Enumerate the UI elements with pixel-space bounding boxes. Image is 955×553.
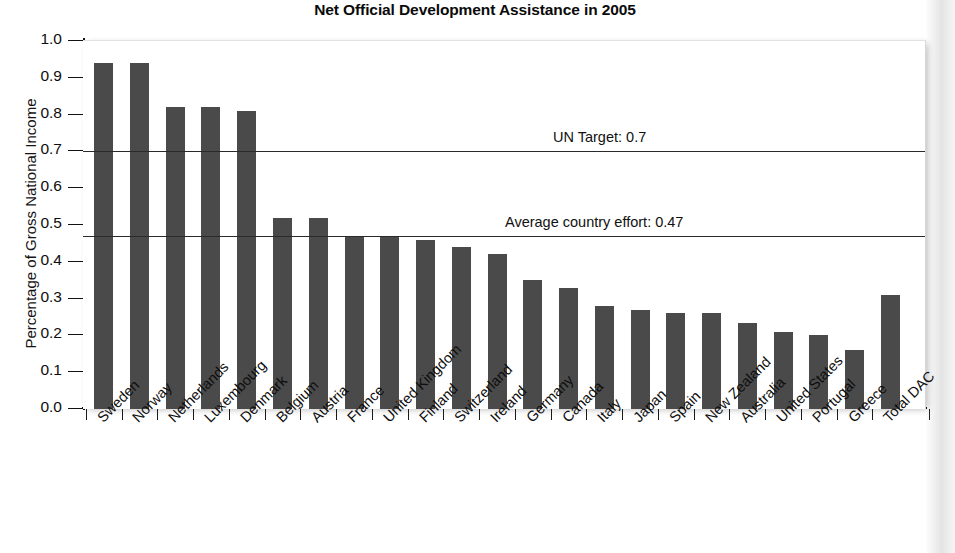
y-tick-label: 0.5 [6,214,62,232]
y-tick [68,334,83,335]
x-tick [658,409,659,420]
y-tick-label: 0.3 [6,288,62,306]
bar [166,107,185,409]
x-tick [801,409,802,420]
x-tick [729,409,730,420]
plot-area: UN Target: 0.7Average country effort: 0.… [83,40,926,409]
y-tick-label: 1.0 [6,30,62,48]
y-tick-label: 0.2 [6,324,62,342]
x-tick [229,409,230,420]
bar [702,313,721,409]
y-tick [68,187,83,188]
y-tick-label: 0.1 [6,361,62,379]
x-tick [408,409,409,420]
x-tick [372,409,373,420]
reference-line [83,236,925,237]
x-tick [193,409,194,420]
reference-line [83,151,925,152]
x-tick [872,409,873,420]
bar [345,236,364,409]
y-tick-label: 0.4 [6,251,62,269]
bar [666,313,685,409]
x-tick [586,409,587,420]
y-tick-label: 0.0 [6,398,62,416]
x-tick [443,409,444,420]
y-tick [68,408,83,409]
y-tick [68,77,83,78]
x-tick [300,409,301,420]
x-tick [765,409,766,420]
x-tick [694,409,695,420]
chart-figure: Net Official Development Assistance in 2… [0,0,955,553]
y-tick-label: 0.7 [6,140,62,158]
y-tick-label: 0.6 [6,177,62,195]
x-tick [837,409,838,420]
x-tick [479,409,480,420]
y-tick-label: 0.8 [6,104,62,122]
reference-line-label: Average country effort: 0.47 [505,214,683,230]
bar [631,310,650,409]
x-tick [86,409,87,420]
y-tick [68,261,83,262]
chart-title: Net Official Development Assistance in 2… [0,1,950,19]
x-tick [929,409,930,420]
reference-line-label: UN Target: 0.7 [553,129,646,145]
bar [380,236,399,409]
x-tick [515,409,516,420]
y-tick [68,224,83,225]
y-tick [68,371,83,372]
y-tick [68,150,83,151]
source-footnote [12,544,442,553]
y-tick-label: 0.9 [6,67,62,85]
x-tick [265,409,266,420]
y-tick [68,40,83,41]
x-tick [622,409,623,420]
x-tick [122,409,123,420]
y-tick [68,298,83,299]
x-tick [157,409,158,420]
scan-shadow [925,0,955,553]
x-tick [336,409,337,420]
y-tick [68,114,83,115]
x-tick [551,409,552,420]
